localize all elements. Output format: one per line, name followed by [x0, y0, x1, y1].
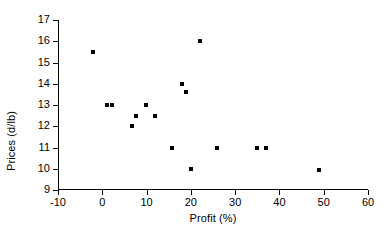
x-tick-mark: [147, 190, 148, 195]
data-point: [105, 103, 109, 107]
x-tick-label: 30: [215, 196, 255, 208]
data-point: [184, 90, 188, 94]
x-tick-mark: [368, 190, 369, 195]
data-point: [180, 82, 184, 86]
y-tick-mark: [53, 84, 58, 85]
data-point: [317, 168, 321, 172]
y-tick-label: 15: [30, 56, 50, 68]
y-tick-label: 14: [30, 77, 50, 89]
x-tick-mark: [324, 190, 325, 195]
data-point: [264, 146, 268, 150]
data-point: [215, 146, 219, 150]
y-axis-title: Prices (d/lb): [0, 0, 22, 234]
data-point: [255, 146, 259, 150]
x-tick-mark: [102, 190, 103, 195]
y-tick-label: 11: [30, 141, 50, 153]
y-tick-mark: [53, 105, 58, 106]
x-tick-label: 50: [304, 196, 344, 208]
y-tick-mark: [53, 126, 58, 127]
y-tick-label: 9: [30, 183, 50, 195]
y-tick-mark: [53, 63, 58, 64]
x-tick-label: 60: [348, 196, 388, 208]
x-axis-title: Profit (%): [58, 212, 368, 224]
x-tick-mark: [235, 190, 236, 195]
x-tick-label: -10: [38, 196, 78, 208]
y-axis-title-text: Prices (d/lb): [5, 111, 17, 171]
y-tick-mark: [53, 41, 58, 42]
x-tick-mark: [58, 190, 59, 195]
y-tick-label: 12: [30, 119, 50, 131]
scatter-chart: Prices (d/lb) 91011121314151617 -1001020…: [0, 0, 389, 234]
x-tick-mark: [191, 190, 192, 195]
data-point: [110, 103, 114, 107]
data-point: [134, 114, 138, 118]
y-tick-mark: [53, 20, 58, 21]
data-point: [198, 39, 202, 43]
data-point: [91, 50, 95, 54]
x-tick-label: 0: [82, 196, 122, 208]
x-tick-mark: [279, 190, 280, 195]
x-tick-label: 10: [127, 196, 167, 208]
y-tick-label: 10: [30, 162, 50, 174]
y-tick-mark: [53, 169, 58, 170]
y-tick-label: 17: [30, 13, 50, 25]
x-tick-label: 40: [259, 196, 299, 208]
y-tick-label: 13: [30, 98, 50, 110]
x-tick-label: 20: [171, 196, 211, 208]
data-point: [130, 124, 134, 128]
data-point: [189, 167, 193, 171]
data-point: [153, 114, 157, 118]
data-point: [144, 103, 148, 107]
data-point: [170, 146, 174, 150]
y-tick-mark: [53, 148, 58, 149]
y-tick-label: 16: [30, 34, 50, 46]
